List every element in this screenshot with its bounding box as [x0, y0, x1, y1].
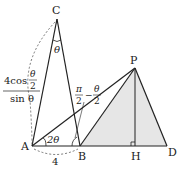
length-ac-num-theta: θ — [30, 69, 36, 79]
point-label-p: P — [130, 54, 138, 67]
length-ac-num: 4cos — [4, 75, 27, 86]
angle-b-minus: − — [85, 90, 93, 100]
point-label-d: D — [168, 146, 177, 159]
angle-b-pi: π — [75, 84, 83, 94]
angle-arc-c — [53, 40, 61, 42]
dashed-brace-ab — [34, 149, 78, 155]
angle-b-theta: θ — [94, 84, 100, 94]
shaded-triangle-bpd — [80, 68, 167, 146]
angle-arc-a — [43, 138, 46, 146]
point-label-a: A — [20, 140, 30, 153]
segment-bc — [57, 19, 80, 146]
angle-label-a: 2θ — [46, 134, 59, 145]
point-label-c: C — [52, 4, 60, 17]
point-label-b: B — [78, 150, 86, 163]
segment-ac — [32, 19, 57, 146]
angle-arc-b — [72, 137, 77, 146]
point-label-h: H — [131, 150, 141, 163]
length-ac-num-2: 2 — [30, 81, 36, 91]
length-ac-den: sin θ — [10, 93, 34, 104]
geometry-diagram: C P A B H D θ 2θ π 2 − θ 2 4cos θ 2 sin … — [0, 0, 180, 172]
angle-label-c: θ — [54, 44, 60, 55]
angle-pointer-b — [75, 102, 84, 138]
angle-b-2: 2 — [76, 96, 82, 106]
angle-b-theta-2: 2 — [94, 96, 100, 106]
length-ab: 4 — [52, 156, 58, 167]
